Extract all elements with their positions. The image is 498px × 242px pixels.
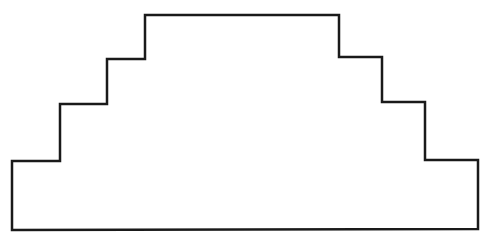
ziggurat-diagram	[0, 0, 498, 242]
stepped-outline	[12, 15, 478, 230]
